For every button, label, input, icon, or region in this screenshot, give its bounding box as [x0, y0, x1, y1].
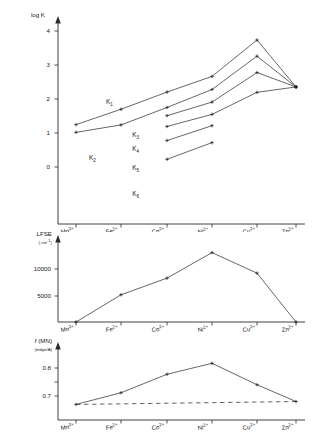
series-label-k5: K5	[132, 164, 139, 173]
series-line-k4	[167, 87, 296, 127]
series-line-f-baseline	[76, 402, 296, 405]
y-axis-title-top: log K	[31, 11, 46, 18]
cat-label-sup: 2+	[159, 324, 165, 330]
y-ticks-top: 4 3 2 1 0	[47, 27, 58, 170]
chart-force-constant: 0.8 0.7 f (MN) (mdyn/A) Mn2+ Fe2+ Co2+	[0, 334, 313, 440]
series-label-k6: K6	[132, 190, 139, 199]
cat-label-sup: 2+	[112, 324, 118, 330]
y-axis-arrow-bottom	[55, 342, 61, 350]
y-tick-label: 3	[47, 61, 51, 68]
series-line-k1	[76, 40, 296, 125]
axes-bottom	[55, 342, 305, 420]
series-label-k3: K3	[132, 131, 139, 140]
series-line-lfse	[76, 253, 296, 322]
cat-label-sup: 2+	[288, 422, 294, 428]
cat-label-sup: 2+	[250, 324, 256, 330]
series-line-k6	[167, 143, 212, 160]
svg-text:Cu2+: Cu2+	[242, 324, 256, 333]
svg-text:Mn2+: Mn2+	[60, 422, 75, 431]
x-ticks-bottom	[76, 420, 296, 424]
series-label-k4: K4	[132, 145, 139, 154]
y-ticks-bottom: 0.8 0.7	[42, 364, 58, 399]
series-line-f-observed	[76, 363, 296, 404]
y-tick-label: 5000	[37, 292, 51, 299]
y-tick-label: 0.8	[42, 364, 51, 371]
y-tick-label: 0	[47, 163, 51, 170]
axes-middle	[55, 235, 305, 322]
x-tick-labels-bottom: Mn2+ Fe2+ Co2+ Ni2+ Cu2+ Zn2+	[60, 422, 294, 431]
y-axis-units-middle: ( cm-1)	[38, 238, 52, 245]
plot-area-bottom	[74, 362, 297, 407]
svg-text:Co2+: Co2+	[151, 422, 165, 431]
svg-text:Fe2+: Fe2+	[105, 422, 118, 431]
y-axis-units-bottom: (mdyn/A)	[35, 347, 53, 352]
chart-lfse: 10000 5000 LFSE ( cm-1) Mn2+ Fe2+ Co2+	[0, 228, 313, 340]
cat-label-sup: 2+	[68, 324, 74, 330]
cat-label-sup: 2+	[203, 324, 209, 330]
x-ticks-top	[76, 224, 296, 228]
y-tick-label: 2	[47, 95, 51, 102]
cat-label-sup: 2+	[250, 422, 256, 428]
series-line-k5	[167, 126, 212, 141]
cat-label-sup: 2+	[159, 422, 165, 428]
y-tick-label: 4	[47, 27, 51, 34]
chart-log-k: 4 3 2 1 0 log K Mn2+ Fe2+ Co2+	[0, 0, 313, 232]
y-tick-label: 0.7	[42, 392, 51, 399]
series-line-k3	[167, 73, 296, 116]
cat-label-sup: 2+	[203, 422, 209, 428]
figure-irving-williams-series: 4 3 2 1 0 log K Mn2+ Fe2+ Co2+	[0, 0, 313, 440]
svg-text:Co2+: Co2+	[151, 324, 165, 333]
series-labels-top: K1 K2 K3 K4 K5 K6	[89, 98, 139, 199]
y-tick-label: 10000	[34, 265, 52, 272]
x-ticks-middle	[76, 322, 296, 326]
y-ticks-middle: 10000 5000	[34, 265, 58, 299]
axes-top	[55, 16, 305, 224]
svg-text:Ni2+: Ni2+	[197, 324, 209, 333]
plot-area-middle	[74, 251, 297, 324]
x-tick-labels-middle: Mn2+ Fe2+ Co2+ Ni2+ Cu2+ Zn2+	[60, 324, 294, 333]
series-label-k1: K1	[106, 98, 113, 107]
y-axis-title-middle: LFSE	[37, 230, 52, 237]
svg-text:Zn2+: Zn2+	[281, 324, 294, 333]
cat-label-sup: 2+	[68, 422, 74, 428]
svg-text:Cu2+: Cu2+	[242, 422, 256, 431]
series-line-k2	[76, 56, 296, 132]
cat-label-sup: 2+	[112, 422, 118, 428]
y-axis-arrow-top	[55, 16, 61, 24]
svg-text:Ni2+: Ni2+	[197, 422, 209, 431]
svg-text:Zn2+: Zn2+	[281, 422, 294, 431]
svg-text:Fe2+: Fe2+	[105, 324, 118, 333]
svg-text:Mn2+: Mn2+	[60, 324, 75, 333]
cat-label-sup: 2+	[288, 324, 294, 330]
y-axis-arrow-middle	[55, 235, 61, 243]
series-label-k2: K2	[89, 154, 96, 163]
y-tick-label: 1	[47, 129, 51, 136]
y-axis-title-bottom: f (MN)	[35, 337, 52, 344]
